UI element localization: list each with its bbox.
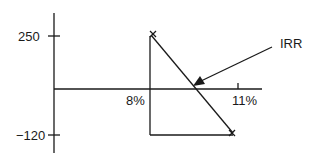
y-tick-label-250: 250 xyxy=(18,29,40,44)
x-tick-label-8: 8% xyxy=(126,93,145,108)
irr-diagram: 250 −120 8% 11% IRR xyxy=(0,0,315,165)
arrow-icon xyxy=(193,47,272,86)
point-marker-x-icon xyxy=(150,31,156,37)
irr-label: IRR xyxy=(280,36,302,51)
x-tick-label-11: 11% xyxy=(232,93,257,108)
y-tick-label-neg120: −120 xyxy=(16,128,45,143)
npv-line xyxy=(151,35,233,133)
